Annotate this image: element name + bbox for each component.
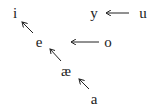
arrow-a-to-ae (79, 79, 89, 89)
node-ae: æ (61, 64, 71, 79)
node-a: a (91, 92, 98, 107)
node-y: y (90, 6, 98, 21)
arrow-ae-to-e (50, 49, 61, 61)
vowel-shift-diagram: i e æ a y u o (0, 0, 155, 108)
arrows-layer (0, 0, 155, 108)
node-i: i (13, 6, 17, 21)
node-e: e (36, 35, 43, 50)
node-o: o (104, 35, 112, 50)
node-u: u (139, 6, 147, 21)
arrow-e-to-i (22, 22, 33, 33)
